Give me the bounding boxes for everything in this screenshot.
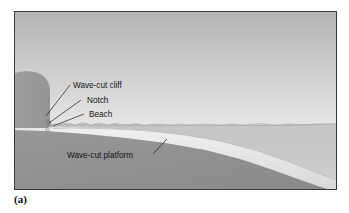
figure-container: Wave-cut cliff Notch Beach Wave-cut plat… xyxy=(0,0,349,213)
label-beach: Beach xyxy=(89,110,113,119)
label-notch: Notch xyxy=(87,96,109,105)
label-wave-cut-platform: Wave-cut platform xyxy=(67,151,133,160)
wave-cut-cliff-region xyxy=(15,71,50,128)
diagram-frame: Wave-cut cliff Notch Beach Wave-cut plat… xyxy=(14,11,337,190)
coastal-cross-section-diagram: Wave-cut cliff Notch Beach Wave-cut plat… xyxy=(15,12,336,189)
label-wave-cut-cliff: Wave-cut cliff xyxy=(73,81,122,90)
figure-caption: (a) xyxy=(14,193,27,205)
